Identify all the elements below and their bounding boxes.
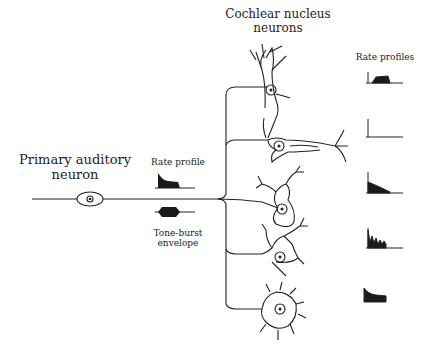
pyramidal-neuron [250, 44, 290, 138]
octopus-neuron [268, 130, 348, 162]
rate-profile-chopper [366, 228, 403, 248]
primary-title-line-1: Primary auditory [5, 153, 145, 168]
tone-burst-envelope [155, 207, 195, 217]
tone-burst-line-2: envelope [143, 238, 213, 248]
rate-profile-onset [366, 119, 403, 137]
cochlear-title: Cochlear nucleus neurons [223, 8, 333, 36]
branch-4 [218, 199, 262, 254]
rate-profile-primary-notch [366, 172, 403, 193]
primary-rate-profile [155, 173, 195, 188]
rate-profile-primary-like [364, 288, 386, 302]
primary-title-line-2: neuron [5, 168, 145, 183]
branch-5 [226, 249, 262, 309]
cochlear-title-line-2: neurons [223, 22, 333, 36]
rate-profiles-label: Rate profiles [347, 52, 423, 62]
primary-neuron-title: Primary auditory neuron [5, 153, 145, 183]
rate-profile-label: Rate profile [143, 157, 213, 167]
rate-profile-buildup [366, 72, 403, 83]
bushy-neuron [260, 282, 306, 340]
stellate-neuron-1 [256, 166, 304, 227]
cochlear-title-line-1: Cochlear nucleus [223, 8, 333, 22]
branch-1 [218, 87, 267, 199]
tone-burst-label: Tone-burst envelope [143, 228, 213, 249]
branch-2 [226, 140, 268, 145]
branch-3 [218, 199, 278, 208]
tone-burst-line-1: Tone-burst [143, 228, 213, 238]
